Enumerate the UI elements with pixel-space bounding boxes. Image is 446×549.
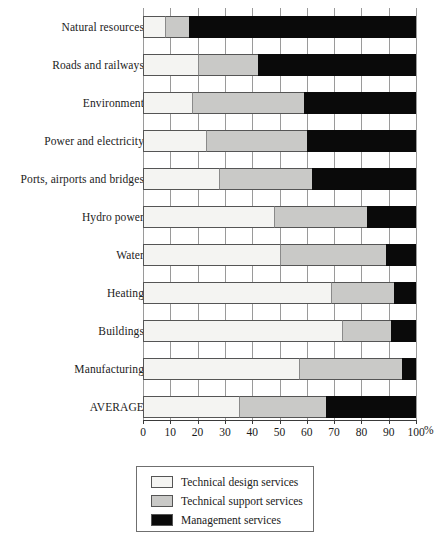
legend-item: Technical support services bbox=[151, 492, 313, 510]
axis-tick-label: 70 bbox=[328, 426, 340, 438]
bar-segment bbox=[367, 206, 416, 228]
category-label: Power and electricity bbox=[44, 135, 144, 148]
category-label: Natural resources bbox=[62, 21, 144, 34]
bar-row: Environment bbox=[0, 84, 446, 122]
category-label: Water bbox=[116, 249, 144, 262]
bar-row: Ports, airports and bridges bbox=[0, 160, 446, 198]
axis-tick bbox=[334, 420, 335, 424]
stacked-bar bbox=[143, 358, 416, 380]
bar-segment bbox=[258, 54, 416, 76]
bar-row: Hydro power bbox=[0, 198, 446, 236]
bar-segment bbox=[198, 54, 258, 76]
bar-segment bbox=[143, 244, 280, 266]
bar-segment bbox=[143, 282, 331, 304]
axis-tick-label: 20 bbox=[192, 426, 204, 438]
bar-segment bbox=[331, 282, 394, 304]
bar-segment bbox=[143, 54, 198, 76]
stacked-bar bbox=[143, 206, 416, 228]
legend-item: Management services bbox=[151, 511, 313, 529]
stacked-bar bbox=[143, 16, 416, 38]
bar-segment bbox=[274, 206, 367, 228]
bar-row: Power and electricity bbox=[0, 122, 446, 160]
bar-row: Manufacturing bbox=[0, 350, 446, 388]
axis-tick bbox=[225, 420, 226, 424]
plot-area: Natural resourcesRoads and railwaysEnvir… bbox=[0, 0, 446, 430]
axis-tick bbox=[361, 420, 362, 424]
axis-tick-label: 30 bbox=[219, 426, 231, 438]
bar-segment bbox=[143, 168, 219, 190]
bar-row: Natural resources bbox=[0, 8, 446, 46]
stacked-bar bbox=[143, 54, 416, 76]
axis-tick bbox=[252, 420, 253, 424]
bar-segment bbox=[386, 244, 416, 266]
bar-segment bbox=[143, 396, 239, 418]
category-label: Hydro power bbox=[82, 211, 144, 224]
bar-segment bbox=[402, 358, 416, 380]
category-label: Environment bbox=[83, 97, 144, 110]
axis-tick-label: 100 bbox=[407, 426, 424, 438]
axis-tick bbox=[416, 420, 417, 424]
axis-tick-label: 40 bbox=[246, 426, 258, 438]
legend-swatch bbox=[151, 514, 173, 526]
legend-item: Technical design services bbox=[151, 473, 313, 491]
axis-tick-label: 50 bbox=[274, 426, 286, 438]
stacked-bar bbox=[143, 396, 416, 418]
stacked-bar bbox=[143, 320, 416, 342]
axis-tick bbox=[280, 420, 281, 424]
category-label: Manufacturing bbox=[74, 363, 144, 376]
legend-label: Technical support services bbox=[181, 495, 303, 507]
bar-segment bbox=[394, 282, 416, 304]
bar-segment bbox=[307, 130, 416, 152]
bar-segment bbox=[280, 244, 386, 266]
axis-tick-label: 80 bbox=[356, 426, 368, 438]
stacked-bar bbox=[143, 168, 416, 190]
bar-row: Roads and railways bbox=[0, 46, 446, 84]
bar-segment bbox=[143, 92, 192, 114]
bar-segment bbox=[189, 16, 416, 38]
bar-segment bbox=[143, 16, 165, 38]
chart-legend: Technical design servicesTechnical suppo… bbox=[136, 466, 314, 532]
bar-segment bbox=[326, 396, 416, 418]
axis-tick-label: 10 bbox=[165, 426, 177, 438]
stacked-bar bbox=[143, 244, 416, 266]
bar-segment bbox=[304, 92, 416, 114]
bar-row: Water bbox=[0, 236, 446, 274]
bar-segment bbox=[143, 130, 206, 152]
category-label: Heating bbox=[107, 287, 144, 300]
stacked-bar-chart: Natural resourcesRoads and railwaysEnvir… bbox=[0, 0, 446, 549]
axis-tick bbox=[143, 420, 144, 424]
axis-tick-label: 0 bbox=[140, 426, 146, 438]
bar-segment bbox=[239, 396, 326, 418]
axis-tick bbox=[389, 420, 390, 424]
axis-tick bbox=[198, 420, 199, 424]
bar-row: Buildings bbox=[0, 312, 446, 350]
bar-segment bbox=[143, 358, 299, 380]
bar-segment bbox=[312, 168, 416, 190]
legend-swatch bbox=[151, 495, 173, 507]
category-label: AVERAGE bbox=[90, 401, 144, 414]
bar-segment bbox=[192, 92, 304, 114]
axis-tick-label: 90 bbox=[383, 426, 395, 438]
bar-segment bbox=[219, 168, 312, 190]
category-label: Ports, airports and bridges bbox=[21, 173, 144, 186]
axis-tick bbox=[170, 420, 171, 424]
legend-label: Management services bbox=[181, 514, 281, 526]
axis-tick bbox=[307, 420, 308, 424]
legend-label: Technical design services bbox=[181, 476, 298, 488]
bar-segment bbox=[143, 206, 274, 228]
category-label: Buildings bbox=[98, 325, 144, 338]
stacked-bar bbox=[143, 130, 416, 152]
x-axis-unit-label: % bbox=[424, 424, 434, 436]
category-label: Roads and railways bbox=[52, 59, 144, 72]
bar-segment bbox=[206, 130, 307, 152]
bar-segment bbox=[299, 358, 403, 380]
legend-swatch bbox=[151, 476, 173, 488]
bar-segment bbox=[391, 320, 416, 342]
bar-segment bbox=[165, 16, 190, 38]
bar-segment bbox=[342, 320, 391, 342]
bar-segment bbox=[143, 320, 342, 342]
stacked-bar bbox=[143, 282, 416, 304]
bar-row: Heating bbox=[0, 274, 446, 312]
bar-rows: Natural resourcesRoads and railwaysEnvir… bbox=[0, 8, 446, 426]
stacked-bar bbox=[143, 92, 416, 114]
